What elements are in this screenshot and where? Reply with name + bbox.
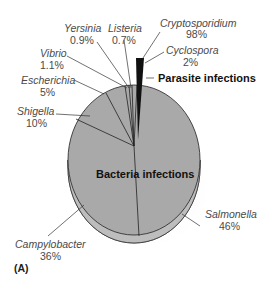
label-escherichia: Escherichia [21,74,75,86]
pct-yersinia: 0.9% [70,34,94,46]
pct-cyclospora: 2% [183,56,198,68]
pct-vibrio: 1.1% [40,59,64,71]
pct-cryptosporidium: 98% [186,28,207,40]
label-listeria: Listeria [108,22,142,34]
pct-shigella: 10% [26,117,47,129]
label-vibrio: Vibrio [40,47,67,59]
pct-salmonella: 46% [219,220,240,232]
label-shigella: Shigella [17,105,55,117]
panel-label: (A) [14,262,29,274]
label-parasite-infections: Parasite infections [158,72,256,84]
label-bacteria-infections: Bacteria infections [96,168,194,180]
pct-listeria: 0.7% [112,34,136,46]
label-campylobacter: Campylobacter [15,238,86,250]
pct-escherichia: 5% [40,86,55,98]
label-yersinia: Yersinia [64,22,102,34]
label-salmonella: Salmonella [205,208,257,220]
pie-chart: Cryptosporidium 98% Cyclospora 2% Parasi… [0,0,271,286]
label-cyclospora: Cyclospora [166,44,219,56]
bacteria-pie [68,85,200,236]
pct-campylobacter: 36% [40,250,61,262]
